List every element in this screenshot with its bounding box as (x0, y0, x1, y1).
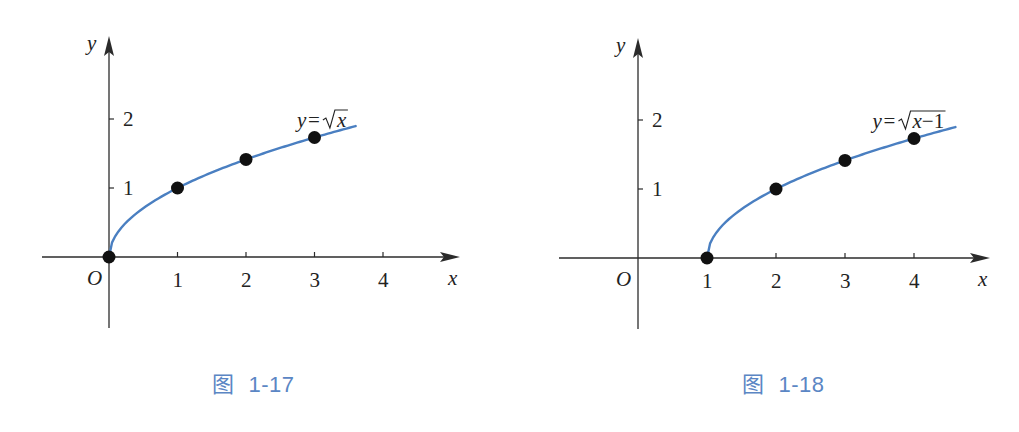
y-tick-label: 1 (652, 177, 663, 201)
x-tick-label: 4 (378, 268, 389, 292)
y-axis-label: y (614, 33, 626, 57)
figure-1-18: xyO123412y=x−1 图1-18 (510, 0, 1019, 432)
chart-sqrt-x-minus-1: xyO123412y=x−1 (510, 0, 1019, 360)
x-axis-label: x (977, 267, 988, 291)
origin-label: O (616, 267, 631, 291)
x-axis-label: x (447, 266, 458, 290)
data-point (308, 131, 321, 144)
figure-glyph: 图 (212, 366, 235, 398)
data-point (103, 251, 116, 264)
figure-number: 1-18 (779, 372, 825, 397)
x-tick-label: 3 (840, 269, 851, 293)
function-label: y=x (295, 108, 348, 132)
figure-number: 1-17 (249, 372, 295, 397)
caption-figure-1-17: 图1-17 (212, 366, 295, 398)
x-tick-label: 1 (702, 269, 713, 293)
function-label: y=x−1 (871, 109, 946, 133)
svg-text:=: = (308, 108, 320, 132)
data-point (240, 153, 253, 166)
function-curve (109, 126, 356, 257)
figure-1-17: xyO123412y=x 图1-17 (0, 0, 510, 432)
data-point (770, 183, 783, 196)
x-tick-label: 1 (173, 268, 184, 292)
svg-text:=: = (884, 109, 896, 133)
data-point (701, 252, 714, 265)
x-tick-label: 2 (771, 269, 782, 293)
y-tick-label: 2 (123, 107, 134, 131)
svg-text:y: y (295, 108, 307, 132)
x-tick-label: 3 (310, 268, 321, 292)
function-curve (707, 127, 955, 258)
x-tick-label: 4 (909, 269, 920, 293)
y-tick-label: 2 (652, 108, 663, 132)
data-point (171, 182, 184, 195)
chart-sqrt-x: xyO123412y=x (0, 0, 510, 360)
svg-text:x: x (336, 108, 347, 132)
x-tick-label: 2 (241, 268, 252, 292)
svg-text:x−1: x−1 (912, 109, 945, 133)
data-point (839, 154, 852, 167)
y-axis-label: y (85, 31, 97, 55)
caption-figure-1-18: 图1-18 (742, 366, 825, 398)
svg-text:y: y (871, 109, 883, 133)
origin-label: O (87, 266, 102, 290)
data-point (908, 132, 921, 145)
figure-glyph: 图 (742, 366, 765, 398)
y-tick-label: 1 (123, 176, 134, 200)
